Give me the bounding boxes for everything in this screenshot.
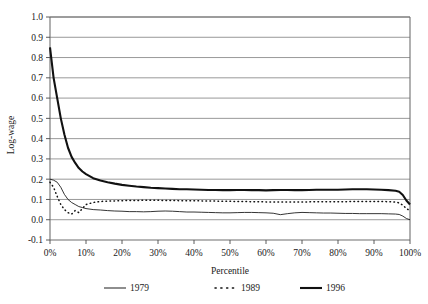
x-tick-label: 10% <box>77 248 95 258</box>
x-tick-label: 70% <box>293 248 311 258</box>
x-tick-label: 40% <box>185 248 203 258</box>
x-tick-label: 30% <box>149 248 167 258</box>
x-tick-label: 0% <box>44 248 57 258</box>
x-tick-label: 100% <box>399 248 421 258</box>
y-tick-label: 0.7 <box>31 73 43 83</box>
y-tick-label: 0.4 <box>31 134 43 144</box>
x-tick-label: 90% <box>365 248 383 258</box>
y-tick-label: 0.6 <box>31 93 43 103</box>
y-tick-label: 0.9 <box>31 33 43 43</box>
y-tick-label: 0.1 <box>31 195 43 205</box>
legend-label-1989: 1989 <box>241 283 260 293</box>
y-tick-label: 0.0 <box>31 215 43 225</box>
legend-label-1996: 1996 <box>326 283 345 293</box>
x-axis-title: Percentile <box>211 266 249 276</box>
y-tick-label: 1.0 <box>31 12 43 22</box>
y-axis-title: Log-wage <box>6 116 16 155</box>
y-tick-label: 0.5 <box>31 114 43 124</box>
x-tick-label: 80% <box>329 248 347 258</box>
y-tick-label: 0.8 <box>31 53 43 63</box>
x-tick-label: 20% <box>113 248 131 258</box>
figure-background <box>0 0 428 304</box>
log-wage-percentile-chart: 1.00.90.80.70.60.50.40.30.20.10.0-0.1 0%… <box>0 0 428 304</box>
x-tick-label: 50% <box>221 248 239 258</box>
y-tick-label: 0.2 <box>31 175 43 185</box>
y-tick-label: -0.1 <box>28 235 43 245</box>
y-tick-label: 0.3 <box>31 154 43 164</box>
legend-label-1979: 1979 <box>130 283 149 293</box>
x-tick-label: 60% <box>257 248 275 258</box>
